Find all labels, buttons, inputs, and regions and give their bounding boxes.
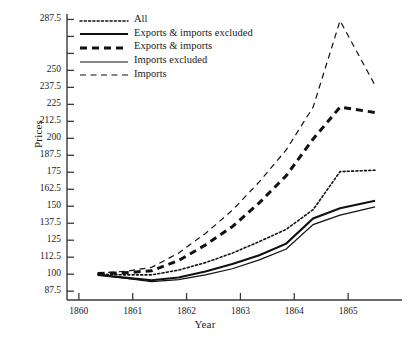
chart-container: Prices Year 87.5100112.5125137.5150162.5… [0, 0, 410, 342]
y-axis-tick-label: 100 [15, 269, 61, 279]
x-axis-tick-label: 1863 [215, 307, 265, 317]
y-axis-tick-label: 137.5 [15, 218, 61, 228]
y-axis-tick-label: 125 [15, 235, 61, 245]
y-axis-tick-label: 225 [15, 99, 61, 109]
x-axis-tick-label: 1864 [269, 307, 319, 317]
x-axis-tick-label: 1865 [323, 307, 373, 317]
legend-label: Imports excluded [134, 54, 207, 65]
series-line-0 [98, 170, 375, 275]
chart-legend: AllExports & imports excludedExports & i… [79, 12, 253, 80]
x-axis-tick-label: 1862 [162, 307, 212, 317]
x-axis-tick-label: 1860 [54, 307, 104, 317]
legend-item: Exports & imports excluded [79, 26, 253, 40]
legend-key-swatch [79, 26, 129, 38]
legend-key-swatch [79, 54, 129, 66]
legend-label: Imports [134, 68, 167, 79]
legend-key-swatch [79, 67, 129, 79]
legend-item: Imports excluded [79, 53, 253, 67]
legend-label: Exports & imports [134, 40, 212, 51]
legend-label: All [134, 13, 147, 24]
legend-key-swatch [79, 40, 129, 52]
x-axis-label: Year [0, 318, 410, 330]
legend-item: Exports & imports [79, 39, 253, 53]
y-axis-tick-label: 212.5 [15, 116, 61, 126]
legend-key-swatch [79, 13, 129, 25]
legend-item: All [79, 12, 253, 26]
y-axis-tick-label: 250 [15, 65, 61, 75]
legend-item: Imports [79, 66, 253, 80]
y-axis-tick-label: 287.5 [15, 14, 61, 24]
x-axis-tick-label: 1861 [108, 307, 158, 317]
y-axis-tick-label: 200 [15, 133, 61, 143]
y-axis-tick-label: 175 [15, 167, 61, 177]
y-axis-tick-label: 87.5 [15, 286, 61, 296]
y-axis-tick-label: 187.5 [15, 150, 61, 160]
y-axis-tick-label: 237.5 [15, 82, 61, 92]
series-line-2 [98, 107, 375, 273]
y-axis-tick-label: 162.5 [15, 184, 61, 194]
legend-label: Exports & imports excluded [134, 27, 253, 38]
y-axis-tick-label: 150 [15, 201, 61, 211]
series-line-1 [98, 201, 375, 280]
y-axis-tick-label: 112.5 [15, 252, 61, 262]
